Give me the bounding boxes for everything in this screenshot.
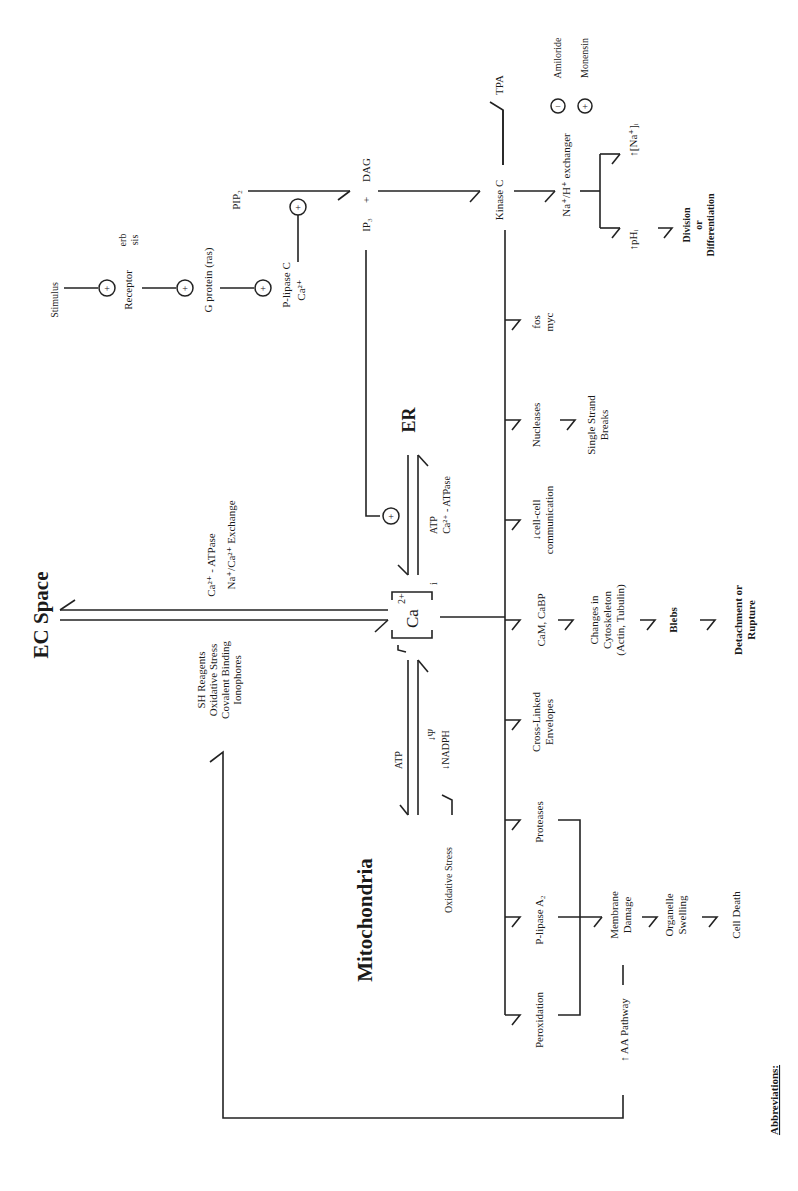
signal-chain: Stimulus + Receptor erb sis + G protein … [49,37,716,318]
ph-arrowhead [612,228,620,238]
mito-oxidative-stress-label: Oxidative Stress [443,847,454,913]
mitochondria-group: Mitochondria ATP ↓Ψ ↓NADPH Oxidative Str… [353,660,454,982]
cell-death-label: Cell Death [730,891,742,939]
ip3-label: IP₃ [360,218,372,232]
ec-space-group: EC Space Ca²⁺ - ATPase Na⁺/Ca²⁺ Exchange… [29,500,388,719]
targets-group: fos myc Nucleases Single Strand Breaks ↓… [210,312,757,1118]
er-uptake-arrowhead [418,455,428,466]
target-crosslinked-line-1: Cross-Linked [530,692,542,752]
ip3-to-er-line [366,250,380,516]
increase-marker-icon [398,645,406,652]
membrane-line-1: Membrane [608,891,620,939]
calcium-center: Ca 2+ i [392,582,505,652]
receptor-label: Receptor [122,270,134,310]
na-arrowhead [612,154,620,164]
calcium-charge: 2+ [396,593,407,604]
ec-influx-label-3: Covalent Binding [219,641,231,719]
mito-uptake-arrowhead [418,660,428,672]
ec-influx-arrowhead [375,620,388,632]
target-arrow-cellcell [505,520,520,530]
strand-breaks-line-1: Single Strand [585,395,597,455]
mito-release-arrowhead [400,805,408,815]
kinase-c-label: Kinase C [493,180,505,221]
er-atpase-label: Ca²⁺ - ATPase [441,476,452,534]
monensin-label: Monensin [579,38,590,78]
cytoskeleton-line-2: Cytoskeleton [601,590,613,649]
target-arrow-plipase-a2 [505,917,520,927]
calcium-signaling-diagram: EC Space Ca²⁺ - ATPase Na⁺/Ca²⁺ Exchange… [0,0,798,1191]
strand-breaks-line-2: Breaks [598,410,610,441]
bracket-left [392,630,432,638]
er-group: ER ATP Ca²⁺ - ATPase + [366,250,452,575]
rupture-line-1: Detachment or [732,585,744,655]
tpa-label: TPA [493,75,505,95]
abbreviations-heading: Abbreviations: [768,1065,780,1135]
target-crosslinked-line-2: Envelopes [543,699,555,745]
amiloride-minus-symbol: − [555,101,561,112]
plipase-plus-symbol: + [260,283,266,294]
calcium-subscript: i [428,582,439,585]
target-fos-line-2: myc [543,312,555,331]
er-release-arrowhead [398,565,408,575]
mito-nadph-label: ↓NADPH [440,730,451,769]
rupture-arrow [700,620,715,630]
membrane-arrowhead [594,917,602,927]
ec-efflux-label-2: Na⁺/Ca²⁺ Exchange [225,500,237,589]
pip2-label: PIP₂ [230,190,242,210]
organelle-arrow [642,917,657,927]
ec-efflux-arrowhead [60,600,75,610]
division-arrow [658,228,672,238]
mito-psi-label: ↓Ψ [426,728,437,741]
dag-label: DAG [360,158,372,182]
target-arrow-nucleases [505,420,520,430]
stimulus-label: Stimulus [49,282,60,318]
mito-atp-label: ATP [393,751,404,769]
target-arrow-peroxidation [505,1015,520,1025]
calcium-label: Ca [403,609,422,628]
membrane-line-2: Damage [621,897,633,934]
ec-space-label: EC Space [29,572,53,659]
receptor-oncogene-1: erb [117,234,128,247]
exchanger-label: Na⁺/H⁺ exchanger [560,133,572,217]
ph-increase-label: ↑pHᵢ [627,229,639,250]
kinase-arrowhead [545,191,555,202]
ec-influx-label-1: SH Reagents [195,651,207,708]
target-arrow-crosslinked [505,720,520,730]
cytoskeleton-line-3: (Actin, Tubulin) [614,584,627,656]
aa-feedback-line [210,752,623,1118]
organelle-line-2: Swelling [676,895,688,935]
target-arrow-proteases [505,820,520,830]
outcome-line-1: Division [681,207,692,242]
monensin-plus-symbol: + [582,101,588,112]
target-plipase-a2: P-lipase A₂ [533,895,545,945]
target-nucleases: Nucleases [530,403,542,448]
tpa-arrow [490,102,503,165]
pip2-arrowhead [338,191,350,200]
dag-arrowhead [470,191,480,202]
target-cam: CaM, CaBP [535,593,547,646]
er-plus-symbol: + [388,511,394,522]
receptor-oncogene-2: sis [129,235,140,246]
strand-breaks-arrow [560,420,575,430]
amiloride-label: Amiloride [552,37,563,79]
ec-influx-label-4: Ionophores [231,655,243,705]
blebs-label: Blebs [667,606,679,632]
outcome-line-2: or [693,220,704,230]
target-fos-line-1: fos [530,315,542,328]
target-peroxidation: Peroxidation [533,991,545,1048]
outcome-line-3: Differentiation [705,193,716,257]
na-increase-label: ↑[Na⁺]ᵢ [627,123,639,156]
target-arrow-cam [505,620,520,630]
ec-influx-label-2: Oxidative Stress [207,644,219,716]
er-atp-label: ATP [428,516,439,534]
receptor-plus-symbol: + [104,283,110,294]
target-arrow-fos [505,320,520,330]
pip-plus-symbol: + [295,202,301,213]
er-label: ER [399,407,419,433]
gprotein-plus-symbol: + [182,283,188,294]
mitochondria-label: Mitochondria [353,858,377,982]
target-cellcell-line-2: communication [543,485,555,554]
target-proteases: Proteases [533,801,545,843]
cytoskeleton-arrow [558,620,573,630]
plipase-c-cofactor: Ca²⁺ [295,279,307,301]
